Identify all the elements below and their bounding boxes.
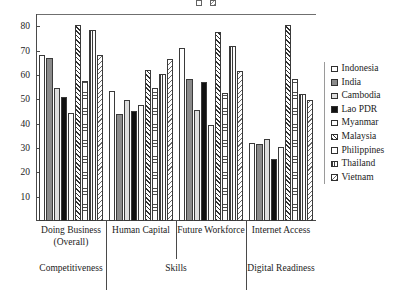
bar [292,79,298,221]
chart-figure: 1020304050607080 Doing Business(Overall)… [0,0,403,290]
bar [97,55,103,221]
bar [237,71,243,221]
bar [222,93,228,221]
legend-item-malaysia[interactable]: Malaysia [331,130,403,144]
category-separator [246,259,247,290]
bar [285,25,291,221]
bar [54,88,60,221]
legend-item-thailand[interactable]: Thailand [331,157,403,171]
legend-item-india[interactable]: India [331,76,403,90]
bar [215,32,221,221]
x-axis-category-band: CompetitivenessSkillsDigital Readiness [36,259,316,290]
cropped-legend-fragment [196,0,216,6]
x-subcategory-label: Future Workforce [176,221,246,259]
y-tick-label: 30 [21,144,31,154]
x-axis-subcategory-band: Doing Business(Overall)Human CapitalFutu… [36,221,316,259]
legend-label: Philippines [342,146,385,156]
legend-item-lao-pdr[interactable]: Lao PDR [331,103,403,117]
legend-item-myanmar[interactable]: Myanmar [331,116,403,130]
legend-item-cambodia[interactable]: Cambodia [331,89,403,103]
bar-group [36,14,106,221]
bar [159,74,165,221]
bar [229,46,235,221]
cropped-swatch-b [210,0,216,6]
plot-area: 1020304050607080 [36,14,316,221]
legend-label: Lao PDR [342,105,378,115]
bar [208,125,214,221]
legend-swatch-icon [331,79,338,86]
legend-swatch-icon [331,174,338,181]
legend-swatch-icon [331,120,338,127]
y-tick-label: 10 [21,193,31,203]
bar [68,113,74,221]
bar [116,114,122,221]
bar [61,97,67,221]
y-tick-label: 80 [21,22,31,32]
bar [271,159,277,221]
y-tick-label: 60 [21,71,31,81]
bar [167,59,173,221]
bar [145,70,151,221]
bar [307,100,313,221]
bar [89,30,95,221]
bar-group [176,14,246,221]
y-tick-label: 40 [21,120,31,130]
x-subcategory-label: Internet Access [246,221,316,259]
legend-swatch-icon [331,66,338,73]
legend-item-vietnam[interactable]: Vietnam [331,171,403,185]
x-category-label: Skills [106,259,246,290]
bar [46,58,52,221]
legend-label: India [342,78,362,88]
bar [186,79,192,221]
bar [82,81,88,221]
bar [124,100,130,221]
bar [264,139,270,221]
legend-label: Malaysia [342,132,377,142]
bar [201,82,207,221]
y-tick-label: 20 [21,169,31,179]
bar-groups [36,14,316,221]
y-tick-label: 50 [21,95,31,105]
legend: IndonesiaIndiaCambodiaLao PDRMyanmarMala… [324,62,403,184]
legend-swatch-icon [331,161,338,168]
legend-label: Indonesia [342,64,379,74]
bar-group [106,14,176,221]
bar [256,144,262,221]
legend-swatch-icon [331,134,338,141]
group-separator [246,221,247,259]
x-subcategory-label: Doing Business(Overall) [36,221,106,259]
legend-swatch-icon [331,93,338,100]
bar [75,25,81,221]
bar [179,48,185,221]
legend-swatch-icon [331,147,338,154]
bar [194,110,200,221]
x-category-label: Digital Readiness [246,259,316,290]
legend-item-philippines[interactable]: Philippines [331,144,403,158]
bar-group [246,14,316,221]
bar [278,147,284,221]
x-category-label: Competitiveness [36,259,106,290]
group-separator [106,221,107,259]
legend-label: Cambodia [342,91,381,101]
legend-item-indonesia[interactable]: Indonesia [331,62,403,76]
bar [109,91,115,221]
group-separator [176,221,177,259]
bar [299,94,305,221]
legend-label: Thailand [342,159,376,169]
legend-label: Vietnam [342,173,374,183]
cropped-swatch-a [196,0,202,6]
bar [152,88,158,221]
x-subcategory-label: Human Capital [106,221,176,259]
y-tick-label: 70 [21,47,31,57]
category-separator [106,259,107,290]
bar [249,143,255,221]
bar [138,105,144,221]
bar [131,111,137,221]
legend-label: Myanmar [342,118,379,128]
bar [39,55,45,221]
legend-swatch-icon [331,106,338,113]
